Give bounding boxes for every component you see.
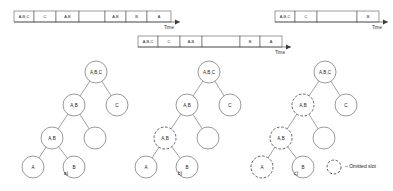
tree-node-label: A,B [70, 103, 77, 108]
figure-canvas: A,B,CCA,BA,BBATimeA,B,CCA,BBATimeA,B,CCB… [0, 0, 393, 191]
tree-node-label: B [185, 165, 188, 170]
time-axis-label: Time [275, 50, 285, 55]
tree-node-label: B [301, 165, 304, 170]
time-axis-label: Time [164, 25, 174, 30]
timeline-b: A,B,CCA,BBATime [138, 36, 291, 55]
timeline-cell-label: A,B,C [280, 14, 291, 19]
timeline-c: A,B,CCBTime [275, 11, 388, 30]
timeline-cell-label: A,B [112, 14, 119, 19]
timeline-cell-label: C [168, 39, 171, 44]
legend-dashed-circle-icon [327, 160, 341, 174]
timeline-cell-label: A [270, 39, 273, 44]
timeline-cell[interactable] [202, 36, 240, 47]
tree-node-label: A,B [299, 103, 306, 108]
tree-node-label: A,B,C [319, 70, 332, 75]
tree-node-label: A,B [48, 136, 55, 141]
tree-node-empty-level2[interactable] [313, 127, 335, 149]
timeline-cell[interactable] [317, 11, 357, 22]
timeline-cell-label: C [305, 14, 308, 19]
time-axis-arrow-icon [175, 19, 180, 24]
timeline-cell[interactable] [79, 11, 105, 22]
legend-label: – Omitted slot [345, 163, 376, 169]
timeline-cell-label: A,B,C [19, 14, 30, 19]
time-axis-arrow-icon [286, 44, 291, 49]
tree-b: A,B,CA,BCA,BABb) [135, 61, 241, 178]
tree-node-empty-level2[interactable] [197, 127, 219, 149]
time-axis-label: Time [372, 25, 382, 30]
tree-c: A,B,CA,BCA,BABc) [251, 61, 357, 178]
timeline-cell-label: B [249, 39, 252, 44]
timeline-cell-label: A,B [64, 14, 71, 19]
timeline-cell-label: A [158, 14, 161, 19]
subfigure-label-b: b) [178, 170, 183, 176]
timeline-cell-label: A,B,C [143, 39, 154, 44]
timeline-a: A,B,CCA,BA,BBATime [14, 11, 180, 30]
tree-node-label: A,B,C [90, 70, 103, 75]
timeline-cell-label: B [367, 14, 370, 19]
tree-node-label: B [72, 165, 75, 170]
timeline-cell-label: B [135, 14, 138, 19]
subfigure-label-a: a) [64, 170, 69, 176]
figure-root: A,B,CCA,BA,BBATimeA,B,CCA,BBATimeA,B,CCB… [0, 0, 393, 191]
tree-node-label: A,B [277, 136, 284, 141]
timeline-cell-label: A,B [188, 39, 195, 44]
time-axis-arrow-icon [383, 19, 388, 24]
tree-node-label: A,B [183, 103, 190, 108]
tree-node-label: A,B,C [203, 70, 216, 75]
legend: – Omitted slot [327, 160, 376, 174]
subfigure-label-c: c) [294, 170, 299, 176]
tree-node-label: A,B [161, 136, 168, 141]
tree-a: A,B,CA,BCA,BABa) [22, 61, 128, 178]
timeline-cell-label: C [44, 14, 47, 19]
tree-node-empty-level2[interactable] [84, 127, 106, 149]
